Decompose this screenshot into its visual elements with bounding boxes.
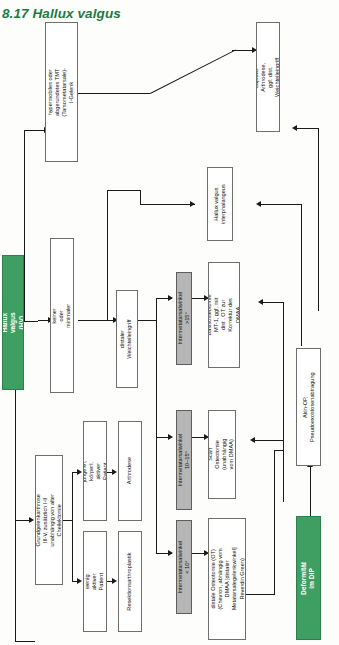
- node-label: Arthrodese: [126, 457, 133, 484]
- node-distaler-weichteileingriff[interactable]: distaler Weichteileingriff: [116, 290, 138, 388]
- connector-akin-to-basis: [262, 302, 284, 303]
- node-label: Hallux valgus interphalangeus: [213, 184, 227, 224]
- connector-akin-lower-spur-top: [274, 450, 284, 451]
- arrow-left-into-hv-interphalangeus: [256, 201, 261, 207]
- node-deformitaet-im-dip[interactable]: Deformität im DIP: [296, 516, 321, 640]
- connector-tmt-out: [78, 93, 150, 94]
- node-wenig-aktiver-patient[interactable]: wenig aktiver Patient: [83, 531, 107, 632]
- node-label: jüngerer, körperl. aktiver Patient: [83, 460, 107, 482]
- node-label: Lapidus-Arthrodese, ggf. dist. Weichteil…: [256, 57, 280, 96]
- arrow-into-hv-interphalangeus: [190, 201, 195, 207]
- node-hallux-valgus-interphalangeus[interactable]: Hallux valgus interphalangeus: [207, 167, 233, 241]
- connector-dip-to-akin: [310, 466, 311, 516]
- arrow-left-into-lapidus-bottom: [292, 125, 297, 131]
- connector-akin-to-lapidus-riser: [318, 128, 319, 311]
- node-label: Resektionsarthroplastik: [126, 552, 133, 610]
- node-label: distale Osteotomie (OT) (Chevron, abhäng…: [209, 548, 245, 611]
- node-resektionsarthroplastik[interactable]: Resektionsarthroplastik: [118, 531, 142, 632]
- connector-to-hv-interphalangeus: [140, 204, 195, 205]
- connector-hv-interphalangeus-riser: [140, 190, 141, 205]
- node-label: Grundgelenkarthrose III-V, zusätzlich I-…: [35, 494, 63, 547]
- connector-akin-lapidus-top: [296, 128, 319, 129]
- node-basisosteotomie-mt-1[interactable]: Basisosteotomie MT-1, ggf. mit dist . OT…: [208, 262, 240, 368]
- node-label: hypermobiles oder abgerundetes TMT (Tars…: [47, 68, 76, 117]
- connector-trunk-vertical-upper: [107, 190, 108, 321]
- arrow-into-arthrosis: [29, 517, 34, 523]
- connector-tmt-riser: [24, 130, 25, 322]
- node-intermetatarsalwinkel-lt-10[interactable]: Intermetatarsalwinkel < 10°: [176, 520, 192, 614]
- node-label: Scarf Osteotomie (unabhängig vom DMAA): [208, 439, 236, 470]
- connector-akin-lower-spur: [274, 450, 275, 595]
- arrow-left-into-scarf: [250, 437, 255, 443]
- node-lapidus-arthrodese[interactable]: Lapidus-Arthrodese, ggf. dist. Weichteil…: [256, 22, 280, 132]
- node-intermetatarsalwinkel-10-15[interactable]: Intermetatarsalwinkel 10–15°: [176, 410, 192, 510]
- connector-akin-spine: [283, 302, 284, 502]
- connector-tmt-foot: [24, 321, 38, 322]
- node-label: distaler Weichteileingriff: [120, 319, 134, 358]
- node-label: Intermetatarsalwinkel 10–15°: [177, 434, 191, 487]
- connector-akin-to-hv-interphalangeus: [258, 204, 302, 205]
- node-arthrodese[interactable]: Arthrodese: [118, 421, 142, 521]
- connector-akin-riser-top: [301, 204, 302, 346]
- node-hv-minimal-arthrosis[interactable]: HV mit keiner oder minimaler Arthrose: [50, 238, 74, 393]
- arrow-into-young-active: [77, 469, 82, 475]
- connector-to-tmt-box: [24, 130, 46, 131]
- arrow-into-ima-10-15: [168, 434, 173, 440]
- page-title: 8.17 Hallux valgus: [2, 6, 121, 21]
- connector-arthrosis-split: [72, 472, 73, 582]
- node-label: Basisosteotomie MT-1, ggf. mit dist . OT…: [208, 294, 240, 335]
- node-label: Intermetatarsalwinkel >15°: [177, 292, 191, 345]
- node-label: Deformität im DIP: [300, 562, 317, 595]
- connector-tmt-diagonal: [150, 49, 236, 93]
- node-label: HV mit keiner oder minimaler Arthrose: [50, 303, 74, 327]
- connector-hv-interphalangeus-branch: [107, 190, 141, 191]
- node-label: Akin-OP, Pseudoexostosenabtragung: [301, 372, 315, 442]
- node-distale-osteotomie[interactable]: distale Osteotomie (OT) (Chevron, abhäng…: [208, 518, 246, 640]
- node-juengerer-aktiver-patient[interactable]: jüngerer, körperl. aktiver Patient: [83, 421, 107, 521]
- connector-ima-lower-trunk: [156, 437, 157, 554]
- arrow-into-less-active: [77, 578, 82, 584]
- connector-akin-to-scarf: [254, 440, 284, 441]
- flowchart-canvas: 8.17 Hallux valgus: [0, 0, 339, 645]
- node-hallux-valgus-hv[interactable]: Hallux valgus (HV): [2, 255, 24, 390]
- node-hypermobiles-tmt-gelenk[interactable]: hypermobiles oder abgerundetes TMT (Tars…: [45, 22, 78, 162]
- connector-minimal-arthrosis-right: [78, 320, 108, 321]
- arrow-into-ima-lt10: [168, 550, 173, 556]
- node-akin-op[interactable]: Akin-OP, Pseudoexostosenabtragung: [296, 348, 321, 466]
- node-label: Intermetatarsalwinkel < 10°: [177, 541, 191, 594]
- node-label: wenig aktiver Patient: [84, 571, 105, 593]
- connector-distal-soft-tissue-out: [138, 320, 157, 321]
- node-intermetatarsalwinkel-gt-15[interactable]: Intermetatarsalwinkel >15°: [176, 272, 192, 365]
- arrow-left-into-basisosteotomie: [258, 299, 263, 305]
- node-grundgelenkarthrose[interactable]: Grundgelenkarthrose III-V, zusätzlich I-…: [35, 455, 63, 585]
- arrow-into-arthrodese: [112, 469, 117, 475]
- connector-start-down-foot: [15, 641, 35, 642]
- node-scarf-osteotomie[interactable]: Scarf Osteotomie (unabhängig vom DMAA): [208, 410, 236, 499]
- connector-start-down: [15, 390, 16, 642]
- arrow-into-resektionsarthroplastik: [112, 578, 117, 584]
- node-label: Hallux valgus (HV): [2, 312, 24, 333]
- arrow-into-ima-gt15: [168, 295, 173, 301]
